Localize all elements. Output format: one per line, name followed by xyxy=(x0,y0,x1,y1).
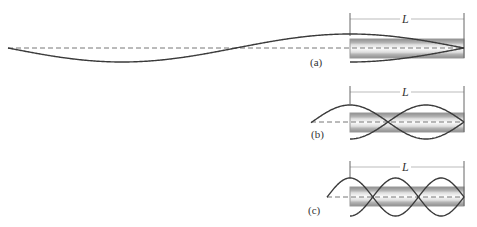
length-label-a: L xyxy=(400,13,411,25)
length-label-b: L xyxy=(400,86,411,98)
diagram: L L L (a) (b) (c) xyxy=(0,0,477,227)
length-label-c: L xyxy=(400,161,411,173)
tube-a xyxy=(350,39,464,58)
panel-label-c: (c) xyxy=(308,204,320,216)
panel-c xyxy=(327,161,464,216)
panel-label-b: (b) xyxy=(311,128,324,140)
panel-b xyxy=(311,86,464,139)
panel-a xyxy=(8,13,464,62)
standing-waves-svg xyxy=(0,0,477,227)
panel-label-a: (a) xyxy=(310,56,322,68)
